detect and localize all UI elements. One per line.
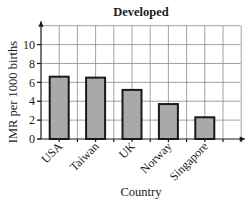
x-axis-label: Country	[121, 185, 163, 199]
y-axis-label: IMR per 1000 births	[6, 41, 20, 144]
y-tick-label: 0	[29, 132, 35, 146]
x-tick-label: UK	[116, 139, 138, 161]
chart-title: Developed	[113, 5, 169, 19]
y-tick-label: 10	[23, 38, 35, 52]
x-tick-label: Taiwan	[67, 139, 102, 174]
x-tick-label: USA	[38, 139, 65, 166]
bar-norway	[159, 104, 178, 139]
bar-chart: 0246810 USATaiwanUKNorwaySingapore Devel…	[0, 0, 251, 206]
y-tick-label: 4	[29, 94, 35, 108]
bar-usa	[50, 77, 69, 139]
y-tick-label: 6	[29, 76, 35, 90]
bar-uk	[123, 90, 142, 139]
y-tick-label: 8	[29, 57, 35, 71]
y-axis-arrow-icon	[39, 21, 44, 27]
bar-singapore	[195, 117, 214, 139]
x-tick-labels: USATaiwanUKNorwaySingapore	[38, 139, 210, 184]
bar-taiwan	[86, 78, 105, 139]
x-tick-label: Singapore	[167, 139, 211, 183]
y-tick-label: 2	[29, 113, 35, 127]
